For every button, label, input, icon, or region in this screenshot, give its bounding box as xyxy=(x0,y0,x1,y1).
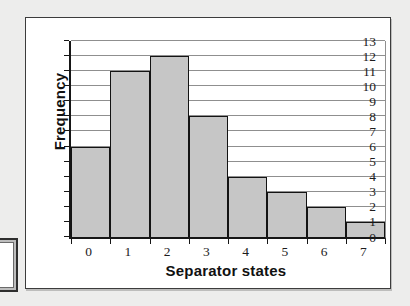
x-tick-label-3: 3 xyxy=(187,244,226,262)
x-axis-title: Separator states xyxy=(69,262,383,279)
y-tick-mark-9 xyxy=(64,100,69,101)
y-tick-label-9: 9 xyxy=(369,95,376,109)
gridline-y13 xyxy=(71,40,385,41)
plot-area: 012345678910111213 xyxy=(69,41,386,239)
y-tick-mark-2 xyxy=(64,206,69,207)
bar-4 xyxy=(228,177,267,237)
y-tick-mark-4 xyxy=(64,176,69,177)
y-tick-label-10: 10 xyxy=(363,79,377,93)
y-tick-mark-0 xyxy=(64,236,69,237)
x-tick-label-2: 2 xyxy=(148,244,187,262)
y-tick-mark-7 xyxy=(64,130,69,131)
x-tick-label-4: 4 xyxy=(226,244,265,262)
x-tick-mark-8 xyxy=(385,239,386,244)
y-tick-mark-11 xyxy=(64,70,69,71)
bar-6 xyxy=(307,207,346,237)
bar-3 xyxy=(189,116,228,237)
x-tick-label-1: 1 xyxy=(108,244,147,262)
x-tick-label-0: 0 xyxy=(69,244,108,262)
y-tick-label-12: 12 xyxy=(363,49,377,63)
y-tick-mark-10 xyxy=(64,85,69,86)
x-tick-label-6: 6 xyxy=(305,244,344,262)
bar-7 xyxy=(346,222,385,237)
y-tick-mark-5 xyxy=(64,161,69,162)
y-tick-mark-6 xyxy=(64,146,69,147)
bar-5 xyxy=(267,192,306,237)
x-tick-label-7: 7 xyxy=(344,244,383,262)
y-tick-mark-13 xyxy=(64,40,69,41)
y-tick-label-8: 8 xyxy=(369,110,376,124)
gridline-y12 xyxy=(71,55,385,56)
y-axis-title: Frequency xyxy=(51,67,68,157)
y-tick-label-0: 0 xyxy=(369,230,376,244)
bar-1 xyxy=(110,71,149,237)
bar-0 xyxy=(71,147,110,237)
y-tick-mark-8 xyxy=(64,115,69,116)
x-tick-label-5: 5 xyxy=(265,244,304,262)
y-tick-mark-12 xyxy=(64,55,69,56)
y-tick-mark-1 xyxy=(64,221,69,222)
cropped-box-fragment xyxy=(0,238,18,292)
y-tick-label-1: 1 xyxy=(369,215,376,229)
y-tick-label-3: 3 xyxy=(369,185,376,199)
y-tick-label-11: 11 xyxy=(363,64,376,78)
y-tick-label-13: 13 xyxy=(363,34,377,48)
scanned-figure-page: Frequency 012345678910111213 01234567 Se… xyxy=(0,0,410,306)
y-tick-label-2: 2 xyxy=(369,200,376,214)
y-tick-mark-3 xyxy=(64,191,69,192)
x-axis-tick-labels: 01234567 xyxy=(69,244,383,262)
bar-2 xyxy=(150,56,189,237)
y-tick-label-4: 4 xyxy=(369,170,376,184)
chart-frame: Frequency 012345678910111213 01234567 Se… xyxy=(25,17,391,289)
y-tick-label-5: 5 xyxy=(369,155,376,169)
y-tick-label-7: 7 xyxy=(369,125,376,139)
y-tick-label-6: 6 xyxy=(369,140,376,154)
